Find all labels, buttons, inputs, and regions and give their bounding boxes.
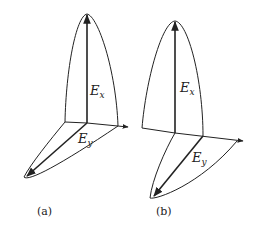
y-field-envelope: [24, 122, 118, 178]
x-field-envelope: [142, 21, 203, 136]
propagation-axis: [175, 133, 243, 141]
propagation-axis: [87, 123, 128, 127]
polarization-diagram: Ex Ey (a) Ex Ey (b): [0, 0, 257, 231]
y-field-envelope: [150, 133, 237, 198]
ey-vector-arrow: [154, 136, 203, 196]
x-field-envelope: [65, 14, 118, 126]
caption-a: (a): [37, 205, 52, 218]
axis-left: [142, 128, 175, 133]
ey-label: Ey: [191, 150, 208, 167]
panel-a: Ex Ey (a): [24, 14, 128, 218]
ex-label: Ex: [179, 80, 195, 97]
ex-label: Ex: [89, 83, 105, 100]
caption-b: (b): [156, 205, 172, 218]
panel-b: Ex Ey (b): [142, 21, 243, 218]
axis-left: [65, 122, 87, 123]
ey-label: Ey: [77, 131, 94, 148]
